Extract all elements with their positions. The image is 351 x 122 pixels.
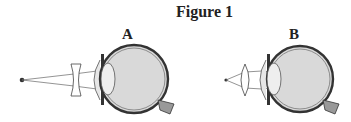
eyeball-b xyxy=(260,46,339,114)
optic-nerve-b xyxy=(323,100,339,114)
eyeball-a xyxy=(94,45,174,114)
concave-lens-icon xyxy=(71,64,81,96)
optic-nerve-a xyxy=(158,100,174,114)
eye-lens-a xyxy=(101,63,115,95)
eye-lens-b xyxy=(267,63,281,95)
convex-lens-icon xyxy=(241,64,249,96)
figure-diagram xyxy=(0,0,351,122)
cornea-b xyxy=(260,60,266,100)
panel-a xyxy=(20,45,174,114)
panel-b xyxy=(224,46,339,114)
